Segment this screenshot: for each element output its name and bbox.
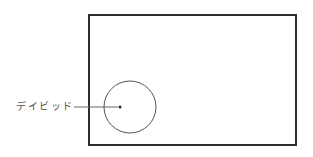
frame-rectangle [89, 15, 296, 145]
point-marker [119, 106, 122, 109]
diagram-canvas [0, 0, 313, 157]
point-label: デイビッド [16, 100, 74, 114]
